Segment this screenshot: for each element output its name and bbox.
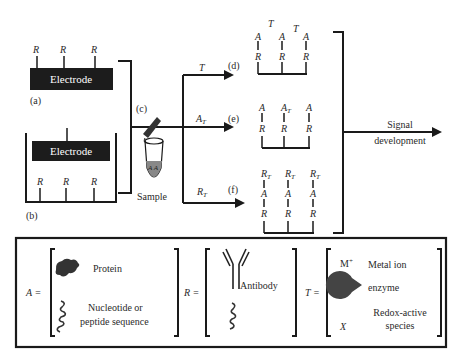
receptor-label: R [310, 209, 316, 219]
electrode-a-label: Electrode [50, 74, 92, 85]
analyte-label: A [310, 189, 316, 199]
branch-e-arrow-label: AT [196, 114, 206, 126]
development-label: development [360, 136, 440, 146]
analyte-label: A [306, 103, 312, 113]
panel-b-label: (b) [26, 211, 38, 221]
target-label: T [293, 24, 299, 34]
branch-f-label: (f) [228, 185, 238, 195]
signal-label: Signal [360, 120, 440, 130]
branch-d-arrow-label: T [199, 63, 205, 73]
analyte-label: A [303, 32, 309, 42]
legend-protein-label: Protein [93, 264, 122, 274]
receptor-label: R [281, 124, 287, 134]
legend-a-symbol: A = [26, 288, 41, 298]
legend-antibody-label: Antibody [240, 281, 278, 291]
enzyme-icon [326, 271, 362, 299]
receptor-label: R [259, 124, 265, 134]
analyte-label: A [259, 103, 265, 113]
analyte-label: A [255, 32, 261, 42]
receptor-label: R [63, 177, 69, 187]
nucleotide-helix-icon [57, 301, 65, 332]
panel-a-label: (a) [30, 96, 41, 106]
step-c-label: (c) [136, 104, 147, 114]
receptor-label: R [261, 209, 267, 219]
receptor-label: R [303, 52, 309, 62]
target-label: T [268, 19, 274, 29]
biosensor-diagram: R R R Electrode (a) Electrode R R R (b) … [0, 0, 463, 361]
receptor-label: R [306, 124, 312, 134]
receptor-label: R [285, 209, 291, 219]
legend-t-symbol: T = [305, 288, 320, 298]
receptor-label: R [91, 45, 97, 55]
sample-label: Sample [137, 192, 167, 202]
analyte-label: A [279, 32, 285, 42]
receptor-label: R [91, 177, 97, 187]
analyte-target-label: AT [281, 103, 291, 115]
protein-icon [56, 259, 80, 277]
legend-peptide-label: peptide sequence [80, 317, 149, 327]
receptor-label: R [33, 45, 39, 55]
branch-e-label: (e) [228, 114, 239, 124]
electrode-b-label: Electrode [50, 146, 92, 157]
branch-d-label: (d) [228, 61, 240, 71]
receptor-target-label: RT [285, 169, 295, 181]
receptor-target-label: RT [261, 169, 271, 181]
receptor-label: R [60, 45, 66, 55]
peptide-helix-icon [230, 303, 236, 329]
legend-species-label: species [360, 321, 440, 331]
legend-enzyme-label: enzyme [368, 283, 399, 293]
sample-contents: A A [148, 165, 158, 172]
legend-nucleotide-label: Nucleotide or [88, 303, 143, 313]
receptor-label: R [37, 177, 43, 187]
redox-symbol: X [340, 322, 346, 332]
analyte-label: A [261, 189, 267, 199]
analyte-label: A [285, 189, 291, 199]
receptor-label: R [255, 52, 261, 62]
metal-symbol: M+ [340, 258, 353, 269]
receptor-target-label: RT [310, 169, 320, 181]
legend-redox-label: Redox-active [360, 308, 440, 318]
receptor-label: R [279, 52, 285, 62]
branch-f-arrow-label: RT [197, 187, 207, 199]
legend-metal-label: Metal ion [368, 260, 407, 270]
legend-r-symbol: R = [184, 288, 199, 298]
